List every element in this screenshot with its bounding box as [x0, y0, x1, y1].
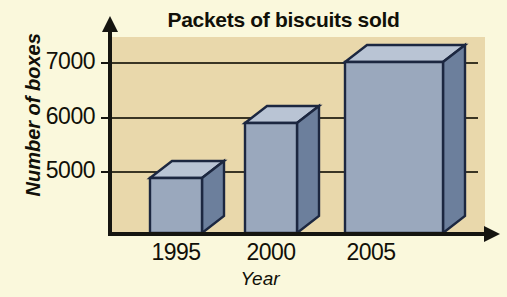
- x-axis-line: [108, 232, 486, 236]
- arrow-right-icon: [484, 226, 500, 242]
- y-axis-label: Number of boxes: [22, 37, 45, 197]
- xtick-label-2005: 2005: [316, 239, 426, 266]
- xtick-label-1995: 1995: [121, 239, 231, 266]
- ytick-mark-6000: [101, 117, 112, 119]
- gridline-5000: [112, 171, 478, 173]
- gridline-6000: [112, 117, 478, 119]
- ytick-mark-5000: [101, 171, 112, 173]
- chart-title: Packets of biscuits sold: [0, 8, 507, 32]
- ytick-label-6000: 6000: [0, 103, 95, 130]
- bar-chart-figure: 7000 6000 5000 1995 2000 2005 Packets of…: [0, 0, 507, 297]
- ytick-label-5000: 5000: [0, 157, 95, 184]
- x-axis-label: Year: [190, 268, 330, 290]
- ytick-label-7000: 7000: [0, 48, 95, 75]
- y-axis-line: [108, 30, 112, 236]
- xtick-label-2000: 2000: [216, 239, 326, 266]
- gridline-7000: [112, 62, 478, 64]
- plot-background: [112, 37, 485, 233]
- ytick-mark-7000: [101, 62, 112, 64]
